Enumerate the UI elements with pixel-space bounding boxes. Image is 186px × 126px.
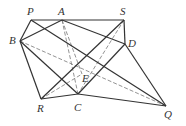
segment-BA bbox=[20, 20, 62, 41]
label-Q: Q bbox=[164, 109, 172, 120]
label-D: D bbox=[128, 38, 136, 49]
segment-AE bbox=[62, 20, 82, 74]
label-B: B bbox=[9, 35, 16, 46]
segment-BC bbox=[20, 41, 78, 94]
segment-DQ bbox=[125, 44, 166, 106]
diagram-lines bbox=[0, 0, 186, 126]
segment-BR bbox=[20, 41, 41, 99]
segment-RC bbox=[41, 94, 78, 99]
geometry-diagram: P A S B D E R C Q bbox=[0, 0, 186, 126]
segment-AD bbox=[62, 20, 125, 44]
label-C: C bbox=[74, 102, 81, 113]
segment-SD bbox=[124, 20, 125, 44]
segment-CD bbox=[78, 44, 125, 94]
label-P: P bbox=[27, 6, 34, 17]
segment-RE bbox=[41, 74, 82, 99]
segment-PQ bbox=[31, 20, 166, 106]
label-S: S bbox=[120, 6, 126, 17]
label-A: A bbox=[58, 6, 65, 17]
label-E: E bbox=[82, 73, 89, 84]
label-R: R bbox=[37, 103, 44, 114]
